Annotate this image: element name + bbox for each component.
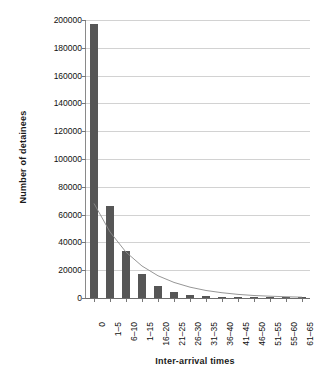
x-tick-mark [158, 299, 159, 302]
x-tick-mark [190, 299, 191, 302]
y-tick-label: 180000 [22, 44, 82, 52]
x-tick-mark [286, 299, 287, 302]
x-tick-label: 41–45 [242, 322, 251, 346]
y-tick-label: 80000 [22, 183, 82, 191]
x-tick-mark [110, 299, 111, 302]
y-tick-mark [82, 20, 86, 21]
x-tick-label: 21–25 [178, 322, 187, 346]
fitted-curve [86, 20, 310, 298]
y-tick-label: 100000 [22, 155, 82, 163]
y-tick-mark [82, 159, 86, 160]
y-tick-label: 60000 [22, 211, 82, 219]
x-tick-label: 51–55 [274, 322, 283, 346]
y-tick-label: 140000 [22, 99, 82, 107]
y-tick-mark [82, 131, 86, 132]
x-tick-label: 6–10 [130, 322, 139, 341]
x-tick-label: 0 [98, 322, 107, 327]
x-tick-label: 16–20 [162, 322, 171, 346]
x-tick-mark [222, 299, 223, 302]
x-tick-label: 26–30 [194, 322, 203, 346]
y-tick-mark [82, 103, 86, 104]
y-tick-mark [82, 242, 86, 243]
chart-figure: Number of detainees 01–56–101–1516–2021–… [0, 0, 326, 379]
y-tick-label: 40000 [22, 238, 82, 246]
x-tick-mark [302, 299, 303, 302]
y-tick-label: 200000 [22, 16, 82, 24]
y-tick-label: 160000 [22, 72, 82, 80]
y-tick-mark [82, 76, 86, 77]
x-tick-mark [126, 299, 127, 302]
x-tick-label: 55–60 [290, 322, 299, 346]
x-tick-mark [94, 299, 95, 302]
x-axis-title: Inter-arrival times [70, 356, 320, 366]
x-tick-label: 31–35 [210, 322, 219, 346]
y-tick-mark [82, 215, 86, 216]
x-tick-mark [254, 299, 255, 302]
x-tick-label: 61–65 [306, 322, 315, 346]
y-tick-label: 20000 [22, 266, 82, 274]
x-tick-mark [238, 299, 239, 302]
x-tick-mark [206, 299, 207, 302]
y-tick-mark [82, 270, 86, 271]
x-axis-line [85, 298, 310, 299]
x-tick-mark [270, 299, 271, 302]
y-tick-label: 120000 [22, 127, 82, 135]
x-tick-label: 46–50 [258, 322, 267, 346]
x-tick-mark [142, 299, 143, 302]
y-tick-mark [82, 298, 86, 299]
y-tick-mark [82, 48, 86, 49]
y-tick-mark [82, 187, 86, 188]
x-tick-label: 1–15 [146, 322, 155, 341]
x-tick-label: 36–40 [226, 322, 235, 346]
plot-area: 01–56–101–1516–2021–2526–3031–3536–4041–… [86, 20, 310, 298]
y-tick-label: 0 [22, 294, 82, 302]
x-tick-label: 1–5 [114, 322, 123, 336]
x-tick-mark [174, 299, 175, 302]
